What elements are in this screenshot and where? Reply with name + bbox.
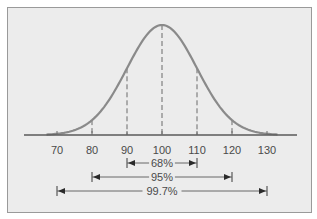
interval-label: 95% [151, 171, 173, 183]
tick-label-90: 90 [121, 144, 133, 156]
tick-label-120: 120 [223, 144, 241, 156]
sd-dashed-lines [92, 25, 232, 135]
tick-label-130: 130 [258, 144, 276, 156]
tick-label-70: 70 [51, 144, 63, 156]
tick-label-110: 110 [188, 144, 206, 156]
tick-label-80: 80 [86, 144, 98, 156]
interval-label: 68% [151, 157, 173, 169]
interval-99-7pct: 99.7% [57, 185, 267, 197]
x-axis-labels: 708090100110120130 [51, 144, 276, 156]
normal-distribution-chart: 708090100110120130 68%95%99.7% [0, 0, 317, 219]
interval-label: 99.7% [146, 185, 177, 197]
interval-arrows: 68%95%99.7% [57, 157, 267, 197]
interval-68pct: 68% [127, 157, 197, 169]
tick-label-100: 100 [153, 144, 171, 156]
interval-95pct: 95% [92, 171, 232, 183]
